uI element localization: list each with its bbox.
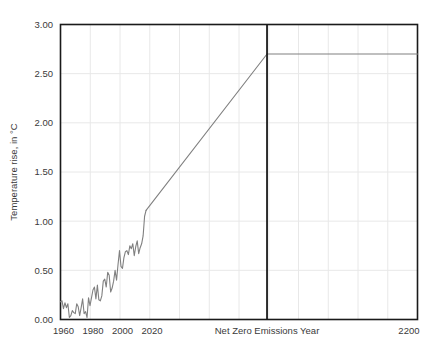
y-tick-label: 0.50	[35, 265, 54, 276]
temperature-rise-chart-figure: 0.000.501.001.502.002.503.00 19601980200…	[0, 0, 440, 349]
x-tick-label: 2000	[112, 325, 133, 336]
y-axis-title: Temperature rise, in °C	[8, 123, 19, 220]
x-tick-label: 2020	[141, 325, 162, 336]
x-tick-label: 1960	[53, 325, 74, 336]
y-tick-label: 1.50	[35, 166, 54, 177]
y-tick-label: 2.50	[35, 68, 54, 79]
y-tick-label: 2.00	[35, 117, 54, 128]
y-tick-label: 1.00	[35, 216, 54, 227]
x-tick-label-net-zero-emissions-year: Net Zero Emissions Year	[215, 325, 320, 336]
temperature-rise-line-chart: 0.000.501.001.502.002.503.00 19601980200…	[0, 0, 440, 349]
x-tick-label: 2200	[398, 325, 419, 336]
x-tick-label: 1980	[82, 325, 103, 336]
chart-background	[0, 0, 440, 349]
y-tick-label: 3.00	[35, 19, 54, 30]
y-axis-title-group: Temperature rise, in °C	[8, 123, 19, 220]
y-tick-label: 0.00	[35, 314, 54, 325]
